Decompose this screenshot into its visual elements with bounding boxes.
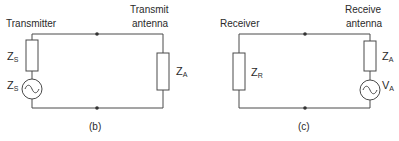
transmitter-label: Transmitter bbox=[6, 18, 57, 29]
za-resistor-label: ZA bbox=[176, 65, 188, 78]
za-resistor-label: ZA bbox=[382, 50, 394, 63]
zr-resistor-label: ZR bbox=[251, 66, 263, 79]
receive-antenna-label-line2: antenna bbox=[346, 18, 383, 29]
receive-antenna-label-line1: Receive bbox=[345, 4, 382, 15]
top-wire bbox=[32, 34, 163, 53]
transmit-antenna-label-line2: antenna bbox=[132, 18, 169, 29]
junction-dot-bottom bbox=[95, 106, 99, 110]
receiver-impedance-resistor-icon bbox=[233, 53, 245, 90]
junction-dot-bottom bbox=[303, 106, 307, 110]
source-impedance-resistor-icon bbox=[26, 40, 38, 71]
circuit-diagrams: Transmitter Transmit antenna ZS ZS ZA (b… bbox=[0, 0, 399, 141]
bottom-wire bbox=[239, 90, 370, 108]
zs-source-label: ZS bbox=[7, 79, 19, 92]
va-source-label: VA bbox=[382, 79, 394, 92]
antenna-impedance-resistor-icon bbox=[157, 53, 169, 90]
antenna-impedance-resistor-icon bbox=[364, 41, 376, 71]
circuit-c: Receiver Receive antenna ZR ZA VA (c) bbox=[220, 4, 394, 132]
circuit-b: Transmitter Transmit antenna ZS ZS ZA (b… bbox=[6, 4, 188, 132]
top-wire bbox=[239, 34, 370, 53]
junction-dot-top bbox=[303, 32, 307, 36]
caption-c: (c) bbox=[298, 121, 310, 132]
transmit-antenna-label-line1: Transmit bbox=[130, 4, 169, 15]
receiver-label: Receiver bbox=[220, 18, 260, 29]
junction-dot-top bbox=[95, 32, 99, 36]
caption-b: (b) bbox=[89, 121, 101, 132]
zs-resistor-label: ZS bbox=[7, 50, 19, 63]
bottom-wire bbox=[32, 90, 163, 108]
